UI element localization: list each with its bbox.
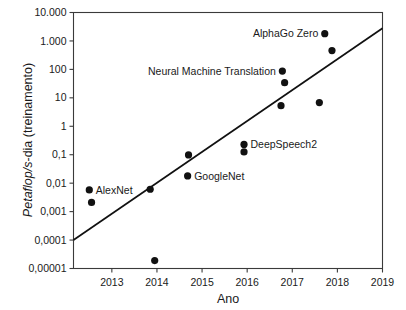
x-axis-title: Ano — [217, 292, 239, 306]
point-label: DeepSpeech2 — [251, 138, 318, 150]
data-point — [147, 186, 154, 193]
y-tick-label: 1.000 — [40, 35, 66, 47]
point-label: Neural Machine Translation — [148, 65, 276, 77]
data-point — [279, 68, 286, 75]
data-point — [281, 79, 288, 86]
point-label: AlexNet — [96, 184, 133, 196]
x-tick-label: 2016 — [235, 276, 259, 288]
chart-figure: 10.0001.0001001010,10,010,0010,00010,000… — [0, 0, 406, 310]
y-tick-label: 10.000 — [34, 6, 66, 18]
data-point — [316, 99, 323, 106]
x-tick-label: 2014 — [145, 276, 169, 288]
data-point — [321, 30, 328, 37]
point-annotations: AlexNetGoogleNetDeepSpeech2Neural Machin… — [96, 27, 319, 195]
plot-frame — [74, 13, 383, 269]
x-axis-ticks — [112, 269, 383, 273]
data-point — [86, 186, 93, 193]
data-point — [88, 199, 95, 206]
x-axis-tick-labels: 2013201420152016201720182019 — [100, 276, 394, 288]
y-tick-label: 100 — [49, 63, 67, 75]
y-tick-label: 10 — [55, 91, 67, 103]
y-axis-title-italic: Petaflop/s — [21, 162, 35, 218]
trend-line-segment — [74, 28, 383, 240]
scatter-plot-canvas: 10.0001.0001001010,10,010,0010,00010,000… — [0, 0, 406, 310]
trend-line — [74, 28, 383, 240]
svg-text:Petaflop/s-dia (treinamento): Petaflop/s-dia (treinamento) — [21, 63, 35, 217]
y-axis-title: Petaflop/s-dia (treinamento) — [21, 63, 35, 217]
data-point — [328, 47, 335, 54]
y-tick-label: 0,00001 — [29, 262, 67, 274]
y-tick-label: 0,0001 — [34, 234, 66, 246]
y-tick-label: 0,01 — [46, 177, 67, 189]
x-tick-label: 2013 — [100, 276, 124, 288]
data-point — [240, 148, 247, 155]
y-axis-title-rest: -dia (treinamento) — [21, 63, 35, 162]
data-point — [240, 141, 247, 148]
x-tick-label: 2018 — [326, 276, 350, 288]
y-tick-label: 1 — [61, 120, 67, 132]
y-tick-label: 0,001 — [40, 205, 66, 217]
data-point — [184, 172, 191, 179]
data-point — [151, 257, 158, 264]
x-tick-label: 2015 — [190, 276, 214, 288]
y-tick-label: 0,1 — [52, 148, 67, 160]
y-axis-ticks — [70, 13, 74, 269]
point-label: AlphaGo Zero — [253, 27, 319, 39]
data-point — [277, 102, 284, 109]
point-label: GoogleNet — [194, 170, 244, 182]
x-tick-label: 2019 — [371, 276, 395, 288]
x-tick-label: 2017 — [281, 276, 305, 288]
data-point — [185, 151, 192, 158]
